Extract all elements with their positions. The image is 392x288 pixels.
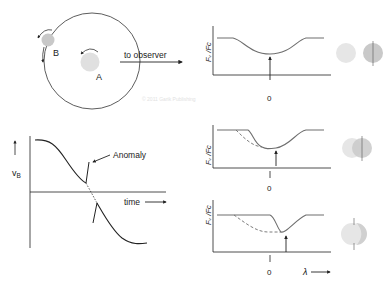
velocity-y-label: vB [12,168,21,179]
observer-label: to observer [124,50,167,60]
lambda-label: λ [302,267,307,277]
profile-3-zero-tick: 0 [267,268,272,277]
velocity-curve-dashed [86,183,97,203]
disk-star-a [336,43,356,63]
anomaly-label: Anomaly [113,150,147,160]
eclipsing-binary-diagram: B A to observer © 2011 Garik Publishing … [0,0,392,288]
watermark: © 2011 Garik Publishing [142,96,196,102]
star-b-label: B [53,48,59,58]
velocity-panel: vB Anomaly time [12,136,166,248]
profile-1-y-label: Fᵥ /Fᴄ [204,42,213,62]
profile-3-line-observed [217,215,324,232]
profile-3-y-label: Fᵥ /Fᴄ [204,205,213,225]
anomaly-spike-up [86,162,89,183]
profile-panel-3: Fᵥ /Fᴄ 0 λ [204,200,367,277]
star-a [81,53,100,72]
star-b [42,34,55,47]
star-a-label: A [96,72,102,82]
profile-1-line [217,38,324,54]
profile-panel-1: Fᵥ /Fᴄ 0 [204,26,383,103]
profile-3-line-unperturbed [234,215,281,232]
orbit-panel: B A to observer [38,13,182,109]
anomaly-spike-down [93,203,97,223]
velocity-curve-first [35,140,86,183]
time-label: time [124,197,140,207]
profile-1-zero-tick: 0 [267,94,272,103]
velocity-curve-second [97,203,147,244]
profile-panel-2: Fᵥ /Fᴄ 0 [204,125,372,193]
profile-2-zero-tick: 0 [267,184,272,193]
anomaly-pointer-arrow-icon [93,155,110,162]
profile-2-y-label: Fᵥ /Fᴄ [204,145,213,165]
profile-2-line-observed [217,130,324,149]
